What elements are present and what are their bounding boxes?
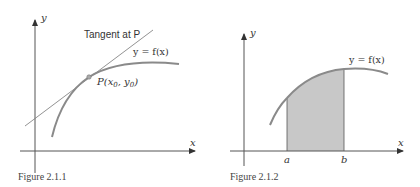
x-axis-label: x	[190, 137, 196, 148]
curve-f	[52, 63, 179, 137]
figure-area: y x y = f(x) a b Figure 2.1.2	[230, 27, 404, 182]
x-axis-label: x	[398, 137, 404, 148]
point-p	[87, 75, 91, 79]
curve-label: y = f(x)	[348, 54, 385, 65]
figure-caption: Figure 2.1.1	[18, 171, 67, 182]
y-axis-label: y	[249, 27, 256, 38]
tangent-label: Tangent at P	[84, 29, 140, 40]
y-axis-label: y	[40, 12, 47, 23]
bound-a-label: a	[284, 154, 290, 165]
point-label: P(x0, y0)	[96, 76, 138, 89]
bound-b-label: b	[341, 154, 347, 165]
figure-caption: Figure 2.1.2	[230, 171, 279, 182]
figures-canvas: y x Tangent at P y = f(x) P(x0, y0) Figu…	[0, 0, 420, 187]
shaded-region	[287, 69, 344, 151]
curve-label: y = f(x)	[132, 46, 169, 57]
figure-tangent: y x Tangent at P y = f(x) P(x0, y0) Figu…	[18, 12, 196, 182]
